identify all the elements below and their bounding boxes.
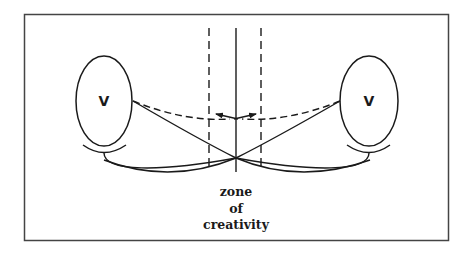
left-loop-curve bbox=[104, 153, 236, 168]
zone-label-line3: creativity bbox=[203, 217, 270, 232]
creativity-zone-diagram: V V zone of creativity bbox=[0, 0, 474, 254]
zone-label-line1: zone bbox=[220, 184, 253, 199]
right-arrow-icon bbox=[234, 114, 256, 119]
zone-label-line2: of bbox=[229, 201, 244, 216]
right-node-label: V bbox=[364, 93, 375, 109]
right-solid-curve bbox=[104, 101, 340, 172]
left-node-label: V bbox=[99, 93, 110, 109]
